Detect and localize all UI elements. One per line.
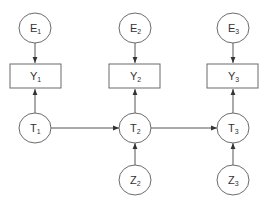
node-y1: Y1 — [10, 64, 61, 88]
node-t2: T2 — [119, 113, 151, 143]
node-z3: Z3 — [217, 165, 249, 195]
node-z2: Z2 — [119, 165, 151, 195]
edges — [35, 43, 233, 165]
causal-diagram: E1 E2 E3 Y1 Y2 Y3 T1 T2 T3 Z2 Z3 — [0, 0, 270, 198]
node-y2: Y2 — [109, 64, 160, 88]
node-t1: T1 — [19, 113, 51, 143]
node-t3: T3 — [217, 113, 249, 143]
node-e3: E3 — [217, 13, 249, 43]
node-e2: E2 — [119, 13, 151, 43]
node-y3: Y3 — [207, 64, 258, 88]
node-e1: E1 — [19, 13, 51, 43]
